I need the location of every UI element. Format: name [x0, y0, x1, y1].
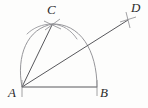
geometry-canvas [0, 0, 148, 108]
point-label-c: C [47, 3, 56, 16]
arc-centered-at-a-through-b [52, 24, 97, 87]
point-label-b: B [100, 86, 108, 99]
arc-centered-at-b-through-a-overshoot [53, 24, 77, 39]
geometry-figure: A B C D [0, 0, 148, 108]
point-label-d: D [131, 1, 140, 14]
point-label-a: A [8, 86, 16, 99]
